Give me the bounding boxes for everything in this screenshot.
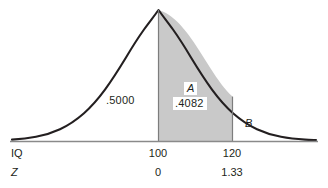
axis-row-z: Z 0 1.33 [0,165,328,184]
axis-tick-z-133: 1.33 [221,167,242,178]
axis-name-iq: IQ [11,148,23,159]
axis-tick-iq-100: 100 [149,148,167,159]
right-tail-symbol-label: B [245,118,252,129]
axis-name-z: Z [11,167,18,178]
left-half-probability-label: .5000 [106,95,135,106]
axis-tick-z-0: 0 [155,167,161,178]
axis-label-rows: IQ 100 120 Z 0 1.33 [0,146,328,188]
normal-distribution-figure: .5000 A .4082 B IQ 100 120 Z 0 1.33 [0,0,328,188]
axis-tick-iq-120: 120 [223,148,241,159]
shaded-area-region [159,10,233,141]
axis-row-iq: IQ 100 120 [0,146,328,165]
shaded-area-symbol-label: A [184,82,197,95]
shaded-area-probability-label: .4082 [173,97,207,110]
